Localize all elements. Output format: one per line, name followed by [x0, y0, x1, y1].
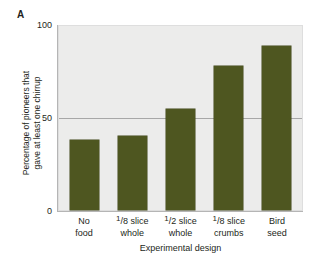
x-tick-eighth-slice-whole-line1: 1/8 slice: [116, 216, 149, 226]
y-axis-title: Percentage of pioneers that gave at leas…: [21, 43, 43, 203]
x-tick-eighth-slice-whole: 1/8 slice whole: [108, 216, 156, 239]
x-tick-bird-seed-line2: seed: [253, 228, 301, 240]
x-tick-eighth-slice-whole-line2: whole: [108, 228, 156, 240]
x-tick-eighth-slice-crumbs-line2: crumbs: [205, 228, 253, 240]
x-tick-eighth-slice-crumbs: 1/8 slice crumbs: [205, 216, 253, 239]
bar-eighth-slice-crumbs[interactable]: [214, 66, 243, 210]
x-tick-eighth-slice-crumbs-line1: 1/8 slice: [212, 216, 245, 226]
x-axis-line: [57, 211, 303, 212]
x-axis-tick-labels: No food 1/8 slice whole 1/2 slice whole …: [58, 216, 303, 239]
x-axis-title: Experimental design: [58, 243, 303, 254]
x-tick-no-food-line2: food: [60, 228, 108, 240]
x-tick-half-slice-whole: 1/2 slice whole: [156, 216, 204, 239]
x-tick-half-slice-whole-line2: whole: [156, 228, 204, 240]
y-axis-title-container: Percentage of pioneers that gave at leas…: [4, 60, 30, 210]
x-tick-half-word: slice: [179, 216, 197, 226]
x-tick-no-food-word: No: [78, 216, 90, 226]
bar-bird-seed[interactable]: [262, 46, 291, 210]
x-tick-half-slice-whole-line1: 1/2 slice: [164, 216, 197, 226]
bar-slot-bird-seed: [252, 26, 300, 210]
y-tick-label-100: 100: [6, 20, 52, 30]
x-tick-eighth-denominator: 8: [123, 216, 128, 226]
x-tick-eighth-word: slice: [131, 216, 149, 226]
bars-container: [59, 26, 302, 210]
x-tick-bird-seed-line1: Bird: [269, 216, 285, 226]
y-axis-title-line2: gave at least one chirrup: [32, 76, 42, 169]
x-tick-crumbs-word: slice: [227, 216, 245, 226]
bar-slot-half-slice-whole: [157, 26, 205, 210]
bar-half-slice-whole[interactable]: [166, 109, 195, 210]
x-tick-bird-seed: Bird seed: [253, 216, 301, 239]
y-axis-title-line1: Percentage of pioneers that: [21, 71, 31, 175]
bar-eighth-slice-whole[interactable]: [118, 136, 147, 210]
x-tick-crumbs-denominator: 8: [219, 216, 224, 226]
bar-slot-eighth-slice-crumbs: [204, 26, 252, 210]
x-tick-no-food-line1: No: [78, 216, 90, 226]
x-tick-half-denominator: 2: [171, 216, 176, 226]
bar-slot-no-food: [61, 26, 109, 210]
bar-slot-eighth-slice-whole: [109, 26, 157, 210]
figure-panel-a: A 100 50 0 Percentage of pioneers that g…: [0, 0, 319, 269]
x-tick-no-food: No food: [60, 216, 108, 239]
plot-area: [58, 25, 303, 211]
x-tick-bird-seed-word: Bird: [269, 216, 285, 226]
bar-no-food[interactable]: [70, 140, 99, 210]
